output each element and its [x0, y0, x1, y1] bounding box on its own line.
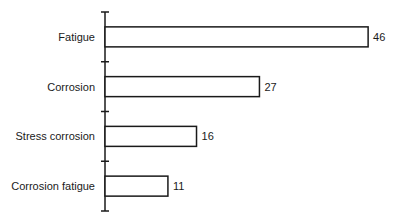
- bar-group: Stress corrosion16: [16, 126, 214, 146]
- value-label: 27: [264, 81, 276, 93]
- value-label: 46: [373, 31, 385, 43]
- bar-group: Fatigue46: [58, 27, 385, 47]
- category-label: Fatigue: [58, 31, 95, 43]
- bar-group: Corrosion27: [47, 77, 276, 97]
- bar-chart: Fatigue46Corrosion27Stress corrosion16Co…: [0, 0, 403, 224]
- bar: [105, 27, 368, 47]
- value-label: 16: [202, 130, 214, 142]
- bar-group: Corrosion fatigue11: [11, 176, 184, 196]
- value-label: 11: [173, 180, 184, 192]
- bar: [105, 176, 168, 196]
- category-label: Stress corrosion: [16, 130, 95, 142]
- category-label: Corrosion: [47, 81, 95, 93]
- category-label: Corrosion fatigue: [11, 180, 95, 192]
- bar: [105, 126, 197, 146]
- bars: Fatigue46Corrosion27Stress corrosion16Co…: [11, 27, 385, 196]
- bar: [105, 77, 259, 97]
